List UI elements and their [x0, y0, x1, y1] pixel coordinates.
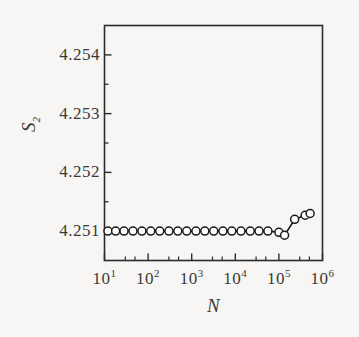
data-series-s2: [104, 210, 314, 240]
x-tick-label: 103: [172, 267, 212, 289]
y-axis-title: S2: [18, 117, 39, 132]
chart-figure: 4.2514.2524.2534.254 101102103104105106 …: [0, 0, 359, 337]
y-tick-label: 4.254: [38, 45, 100, 65]
x-tick-label: 101: [85, 267, 125, 289]
y-tick-label: 4.252: [38, 162, 100, 182]
y-tick-label: 4.253: [38, 104, 100, 124]
x-tick-label: 105: [259, 267, 299, 289]
plot-frame: [105, 26, 323, 261]
x-tick-label: 104: [215, 267, 255, 289]
x-tick-label: 102: [128, 267, 168, 289]
y-tick-label: 4.251: [38, 221, 100, 241]
x-tick-label: 106: [303, 267, 343, 289]
y-axis-title-wrap: S2: [18, 117, 42, 132]
x-axis-title: N: [207, 295, 220, 317]
